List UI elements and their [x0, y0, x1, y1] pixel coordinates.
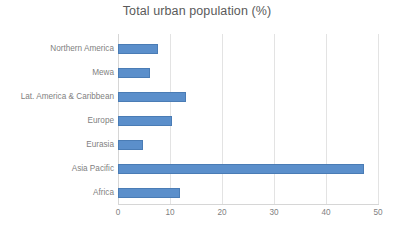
category-label: Eurasia [2, 140, 114, 150]
bar-row [118, 61, 378, 85]
bar [118, 116, 172, 126]
x-tick-label: 40 [311, 207, 341, 219]
x-axis-tick-labels: 01020304050 [0, 207, 394, 223]
bar [118, 92, 186, 102]
x-tick-label: 0 [103, 207, 133, 219]
x-axis-line [118, 204, 379, 205]
category-label: Asia Pacific [2, 164, 114, 174]
x-tick-label: 10 [155, 207, 185, 219]
gridline-50 [378, 34, 379, 204]
bar [118, 68, 150, 78]
x-tick-label: 30 [259, 207, 289, 219]
bar-row [118, 109, 378, 133]
plot-area [118, 34, 378, 204]
category-label: Africa [2, 188, 114, 198]
bar-row [118, 37, 378, 61]
category-label: Europe [2, 116, 114, 126]
bar [118, 140, 143, 150]
x-tick-label: 20 [207, 207, 237, 219]
bar-row [118, 85, 378, 109]
bar-row [118, 181, 378, 205]
bar-chart: Total urban population (%) Northern Amer… [0, 0, 394, 234]
category-label: Northern America [2, 44, 114, 54]
bar-row [118, 157, 378, 181]
bar-row [118, 133, 378, 157]
category-label: Lat. America & Caribbean [2, 92, 114, 102]
chart-title: Total urban population (%) [0, 4, 394, 18]
bar [118, 44, 158, 54]
y-axis-category-labels: Northern AmericaMewaLat. America & Carib… [0, 34, 114, 204]
category-label: Mewa [2, 68, 114, 78]
bar [118, 164, 364, 174]
x-tick-label: 50 [363, 207, 393, 219]
bar [118, 188, 180, 198]
